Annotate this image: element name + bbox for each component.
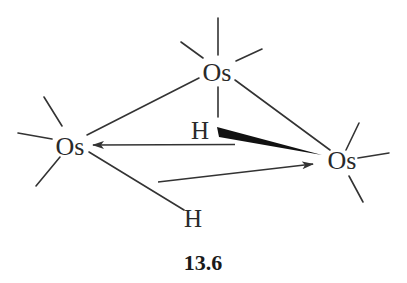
ligand-line [36, 157, 60, 186]
ligand-line [18, 133, 52, 139]
atom-h-lower: H [184, 205, 202, 232]
atom-os-right: Os [328, 146, 357, 175]
figure-label: 13.6 [184, 250, 223, 275]
arrow-h-lower-to-os-right [158, 164, 313, 182]
arrow-h-upper-to-os-left [93, 145, 235, 146]
bond-os-top-os-left [87, 78, 199, 135]
os-top-ligands [181, 18, 262, 61]
atom-os-top: Os [203, 58, 232, 87]
atom-os-left: Os [56, 132, 85, 161]
ligand-line [236, 49, 262, 61]
osmium-cluster-diagram: Os Os Os H H 13.6 [0, 0, 407, 283]
atom-h-upper: H [191, 117, 209, 144]
ligand-line [358, 153, 389, 158]
ligand-line [44, 97, 62, 126]
ligand-line [349, 176, 363, 202]
wedge-bond-h-upper-os-right [217, 127, 322, 155]
ligand-line [181, 42, 203, 58]
